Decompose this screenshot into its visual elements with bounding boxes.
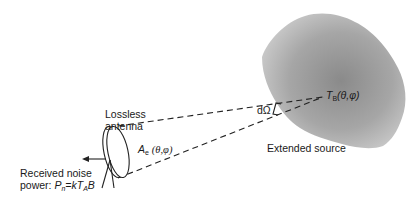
noise-eq: =k: [65, 179, 76, 191]
antenna-label: Lossless antenna: [105, 108, 146, 132]
noise-B: B: [88, 179, 95, 191]
extended-source-label: Extended source: [267, 142, 346, 154]
noise-output-arrow-icon: [82, 156, 89, 162]
brightness-args: (θ,φ): [337, 89, 359, 101]
received-noise-line1: Received noise: [20, 167, 95, 179]
cone-line-lower: [118, 97, 323, 178]
received-noise-label: Received noise power: Pn=kTAB: [20, 167, 95, 195]
extended-source-blob: [262, 14, 405, 149]
antenna-label-line2: antenna: [105, 120, 146, 132]
antenna-label-line1: Lossless: [105, 108, 146, 120]
received-noise-line2: power: Pn=kTAB: [20, 179, 95, 195]
solid-angle-label: dΩ: [257, 104, 271, 116]
noise-prefix: power:: [20, 179, 54, 191]
effective-area-label: Ae (θ,φ): [138, 143, 172, 159]
brightness-temperature-label: TB(θ,φ): [326, 89, 360, 105]
antenna-leg-left: [102, 160, 110, 188]
effective-area-sub: e: [145, 149, 149, 156]
effective-area-symbol: A: [138, 143, 145, 155]
antenna-dish-front: [103, 124, 133, 179]
effective-area-args: (θ,φ): [152, 144, 173, 155]
solid-angle-text: dΩ: [257, 104, 271, 116]
extended-source-text: Extended source: [267, 142, 346, 154]
